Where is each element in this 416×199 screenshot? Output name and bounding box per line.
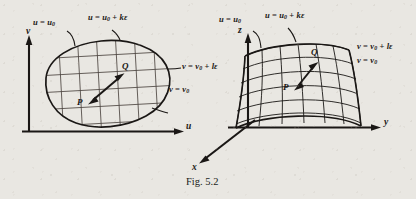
axis-label-v: v [26, 27, 30, 37]
axis-u [22, 128, 184, 135]
axis-label-u: u [186, 122, 191, 132]
leader-u-const-left [67, 31, 75, 46]
panel-parameter-plane [22, 30, 184, 140]
label-v-const-lower: v = v0 [357, 56, 377, 66]
point-label-q: Q [122, 62, 129, 71]
surface-boundary-left [236, 56, 245, 128]
leader-u-const-right [288, 28, 296, 42]
label-u-const-left: u = u0 [219, 15, 241, 25]
axis-label-x: x [192, 163, 197, 173]
label-v-const-upper: v = v0 + lε [182, 62, 218, 72]
point-label-p: P [283, 83, 289, 92]
parameter-region-outline [46, 40, 170, 127]
axis-x [199, 120, 255, 164]
leader-v-const-upper [168, 68, 181, 69]
pq-displacement-arrow [294, 62, 319, 91]
label-v-const-lower: v = v0 [169, 85, 189, 95]
leader-u-const-left [253, 31, 261, 48]
axis-v [26, 35, 33, 132]
figure-drawing [0, 0, 416, 199]
point-label-q: Q [311, 48, 318, 57]
figure-container: v u u = u0 u = u0 + kε v = v0 + lε v = v… [0, 0, 416, 199]
axis-label-y: y [384, 118, 388, 128]
grid-lines-v-const [36, 51, 180, 127]
parameter-grid [36, 30, 180, 140]
panel-surface-patch [199, 28, 381, 164]
label-u-const-right: u = u0 + kε [265, 11, 305, 21]
label-v-const-upper: v = v0 + lε [357, 42, 393, 52]
leader-u-const-right [112, 30, 120, 40]
label-u-const-left: u = u0 [33, 18, 55, 28]
label-u-const-right: u = u0 + kε [88, 13, 128, 23]
axis-label-z: z [238, 26, 242, 36]
figure-caption: Fig. 5.2 [186, 176, 218, 187]
point-label-p: P [77, 98, 83, 107]
